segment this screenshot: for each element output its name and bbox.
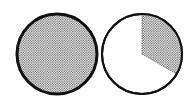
whole-circle	[17, 14, 97, 94]
one-third-circle	[102, 14, 182, 94]
fraction-diagram	[0, 0, 187, 101]
